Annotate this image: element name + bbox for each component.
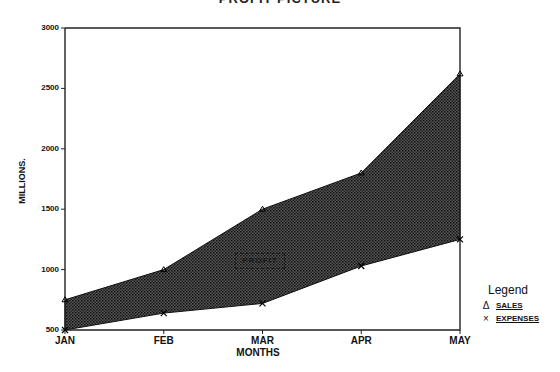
legend: Legend Δ SALES × EXPENSES xyxy=(480,283,560,325)
x-tick-label: APR xyxy=(341,335,381,346)
y-axis-label: MILLIONS. xyxy=(17,151,27,211)
y-tick-label: 2500 xyxy=(19,83,59,92)
plot-area xyxy=(0,0,560,372)
y-tick-label: 1500 xyxy=(19,204,59,213)
legend-item-expenses: × EXPENSES xyxy=(480,312,560,325)
y-tick-label: 1000 xyxy=(19,265,59,274)
y-tick-label: 2000 xyxy=(19,144,59,153)
x-marker-icon: × xyxy=(480,313,492,324)
x-tick-label: FEB xyxy=(144,335,184,346)
legend-label-expenses: EXPENSES xyxy=(496,314,539,323)
y-tick-label: 3000 xyxy=(19,23,59,32)
legend-item-sales: Δ SALES xyxy=(480,299,560,312)
x-tick-label: MAR xyxy=(243,335,283,346)
x-tick-label: MAY xyxy=(440,335,480,346)
y-tick-label: 500 xyxy=(19,325,59,334)
profit-annotation: PROFIT xyxy=(235,253,285,269)
legend-label-sales: SALES xyxy=(496,301,523,310)
profit-area xyxy=(65,74,460,330)
legend-title: Legend xyxy=(488,283,560,297)
x-tick-label: JAN xyxy=(45,335,85,346)
triangle-marker-icon: Δ xyxy=(480,300,492,311)
x-axis-label: MONTHS xyxy=(230,347,286,358)
